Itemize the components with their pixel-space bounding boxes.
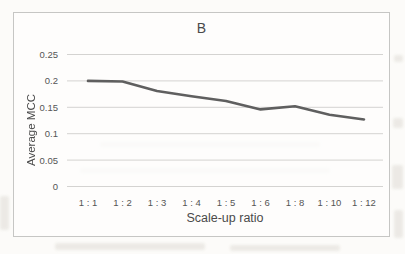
- data-line-series: [88, 81, 364, 120]
- x-tick-label: 1 : 2: [113, 197, 132, 208]
- plot-area: 00.050.10.150.20.251 : 11 : 21 : 31 : 41…: [14, 13, 389, 236]
- x-tick-label: 1 : 1: [79, 197, 98, 208]
- scan-artifact: [393, 118, 403, 128]
- line-chart: B Average MCC 00.050.10.150.20.251 : 11 …: [13, 12, 390, 237]
- x-tick-label: 1 : 3: [148, 197, 167, 208]
- y-tick-label: 0.2: [45, 75, 58, 86]
- x-axis-title: Scale-up ratio: [67, 211, 383, 225]
- x-tick-label: 1 : 5: [217, 197, 236, 208]
- x-tick-label: 1 : 6: [251, 197, 270, 208]
- scan-artifact: [394, 55, 403, 62]
- y-tick-label: 0.15: [40, 102, 59, 113]
- y-tick-label: 0.1: [45, 128, 58, 139]
- x-tick-label: 1 : 8: [286, 197, 305, 208]
- y-tick-label: 0.25: [40, 49, 59, 60]
- x-tick-label: 1 : 12: [352, 197, 376, 208]
- scan-artifact: [230, 245, 340, 251]
- scan-artifact: [0, 196, 9, 230]
- scan-artifact: [392, 165, 403, 189]
- x-tick-label: 1 : 4: [182, 197, 201, 208]
- y-tick-label: 0.05: [40, 155, 59, 166]
- x-tick-label: 1 : 10: [318, 197, 342, 208]
- scan-artifact: [394, 210, 403, 238]
- scan-artifact: [55, 243, 205, 250]
- y-tick-label: 0: [53, 181, 58, 192]
